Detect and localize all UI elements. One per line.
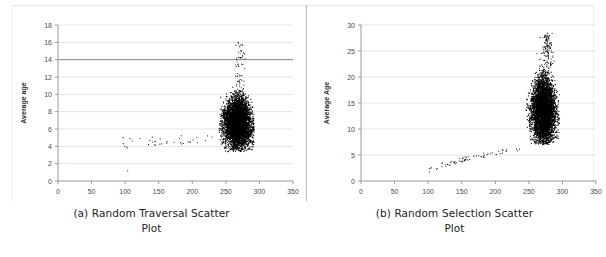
- y-tick-label-10: 10: [347, 126, 355, 133]
- scatter-points: [429, 32, 561, 172]
- x-tick-label-100: 100: [119, 188, 131, 195]
- y-tick-label-25: 25: [347, 48, 355, 55]
- y-tick-label-8: 8: [48, 108, 52, 115]
- chart-a-scatter: 024681012141618050100150200250300350Acti…: [0, 0, 303, 200]
- x-tick-label-200: 200: [489, 188, 501, 195]
- x-tick-label-200: 200: [186, 188, 198, 195]
- x-tick-label-250: 250: [220, 188, 232, 195]
- y-axis-title: Average age: [20, 82, 28, 123]
- x-tick-label-350: 350: [590, 188, 602, 195]
- panel-a-random-traversal: 024681012141618050100150200250300350Acti…: [0, 0, 303, 257]
- scatter-points: [122, 42, 254, 172]
- y-tick-label-2: 2: [48, 160, 52, 167]
- x-tick-label-150: 150: [456, 188, 468, 195]
- y-tick-label-6: 6: [48, 126, 52, 133]
- x-tick-label-100: 100: [422, 188, 434, 195]
- y-tick-label-10: 10: [44, 91, 52, 98]
- x-tick-label-250: 250: [523, 188, 535, 195]
- x-tick-label-350: 350: [287, 188, 299, 195]
- y-tick-label-0: 0: [48, 178, 52, 185]
- y-tick-label-0: 0: [351, 178, 355, 185]
- y-tick-label-20: 20: [347, 74, 355, 81]
- x-tick-label-300: 300: [254, 188, 266, 195]
- chart-b-scatter: 051015202530050100150200250300350Active …: [303, 0, 606, 200]
- y-tick-label-15: 15: [347, 100, 355, 107]
- y-tick-label-4: 4: [48, 143, 52, 150]
- caption-a: (a) Random Traversal Scatter Plot: [10, 206, 293, 236]
- y-tick-label-14: 14: [44, 56, 52, 63]
- y-tick-label-16: 16: [44, 39, 52, 46]
- x-tick-label-300: 300: [557, 188, 569, 195]
- y-tick-label-5: 5: [351, 152, 355, 159]
- scatter-plot-figure: 024681012141618050100150200250300350Acti…: [0, 0, 606, 257]
- caption-b-line2: Plot: [313, 221, 596, 236]
- caption-b: (b) Random Selection Scatter Plot: [313, 206, 596, 236]
- y-axis-title: Average Age: [323, 82, 331, 124]
- y-tick-label-12: 12: [44, 74, 52, 81]
- caption-a-line2: Plot: [10, 221, 293, 236]
- x-tick-label-0: 0: [56, 188, 60, 195]
- x-tick-label-50: 50: [88, 188, 96, 195]
- caption-a-line1: (a) Random Traversal Scatter: [10, 206, 293, 221]
- x-tick-label-0: 0: [359, 188, 363, 195]
- caption-b-line1: (b) Random Selection Scatter: [313, 206, 596, 221]
- x-tick-label-50: 50: [391, 188, 399, 195]
- panel-b-random-selection: 051015202530050100150200250300350Active …: [303, 0, 606, 257]
- y-tick-label-18: 18: [44, 22, 52, 29]
- y-tick-label-30: 30: [347, 22, 355, 29]
- x-tick-label-150: 150: [153, 188, 165, 195]
